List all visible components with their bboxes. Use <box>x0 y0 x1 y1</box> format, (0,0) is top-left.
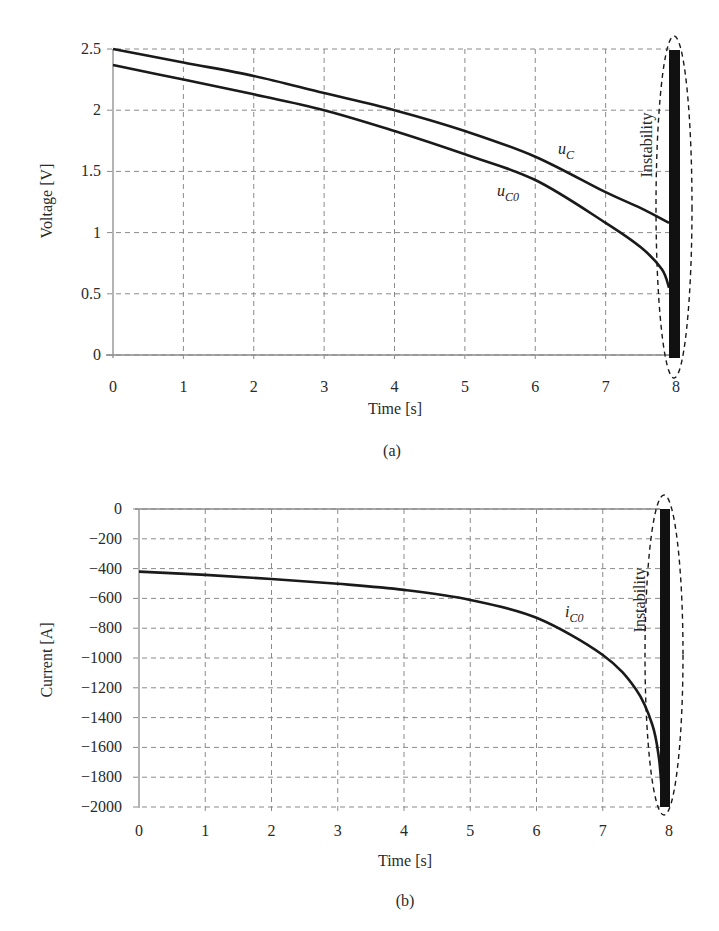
x-tick-label: 3 <box>334 822 342 839</box>
x-tick-label: 0 <box>135 822 143 839</box>
y-tick-label: −1400 <box>81 709 122 726</box>
y-tick-label: −2000 <box>81 798 122 815</box>
label-i-c0: iC0 <box>565 603 583 625</box>
y-tick-label: 0.5 <box>81 285 101 302</box>
chart-a-caption: (a) <box>383 442 401 460</box>
x-tick-label: 7 <box>602 378 610 395</box>
chart-b-x-axis-title: Time [s] <box>378 852 432 869</box>
x-tick-label: 8 <box>665 822 673 839</box>
y-tick-label: −1000 <box>81 649 122 666</box>
chart-b-y-ticks: 0−200−400−600−800−1000−1200−1400−1600−18… <box>81 500 122 815</box>
chart-b-caption: (b) <box>396 892 415 910</box>
x-tick-label: 5 <box>466 822 474 839</box>
chart-a: 00.511.522.5 012345678 uC uC0 Instabilit… <box>38 36 692 460</box>
instability-oscillation-band-a <box>669 50 680 358</box>
chart-a-gridlines <box>107 49 672 359</box>
series-u-c-line <box>113 49 669 223</box>
chart-a-axes <box>106 49 672 358</box>
y-tick-label: 0 <box>114 500 122 517</box>
chart-a-x-ticks: 012345678 <box>109 378 680 395</box>
chart-b-y-axis-title: Current [A] <box>38 622 55 697</box>
x-tick-label: 0 <box>109 378 117 395</box>
y-tick-label: 1.5 <box>81 162 101 179</box>
x-tick-label: 3 <box>320 378 328 395</box>
chart-a-x-axis-title: Time [s] <box>368 400 422 417</box>
chart-b: 0−200−400−600−800−1000−1200−1400−1600−18… <box>38 495 683 910</box>
x-tick-label: 1 <box>179 378 187 395</box>
y-tick-label: 2.5 <box>81 40 101 57</box>
series-u-c0-line <box>113 65 669 288</box>
x-tick-label: 2 <box>268 822 276 839</box>
x-tick-label: 1 <box>201 822 209 839</box>
x-tick-label: 7 <box>599 822 607 839</box>
y-tick-label: −1600 <box>81 738 122 755</box>
chart-b-gridlines <box>133 509 660 811</box>
x-tick-label: 6 <box>531 378 539 395</box>
instability-label-a: Instability <box>638 113 656 178</box>
y-tick-label: 0 <box>93 346 101 363</box>
label-u-c0: uC0 <box>497 182 519 204</box>
chart-a-y-axis-title: Voltage [V] <box>38 164 56 239</box>
x-tick-label: 8 <box>672 378 680 395</box>
label-u-c: uC <box>558 140 575 162</box>
y-tick-label: −1800 <box>81 768 122 785</box>
y-tick-label: 2 <box>93 101 101 118</box>
y-tick-label: −600 <box>89 589 122 606</box>
y-tick-label: 1 <box>93 224 101 241</box>
x-tick-label: 5 <box>461 378 469 395</box>
chart-a-y-ticks: 00.511.522.5 <box>81 40 101 363</box>
y-tick-label: −800 <box>89 619 122 636</box>
series-i-c0-line <box>139 572 662 800</box>
x-tick-label: 2 <box>250 378 258 395</box>
y-tick-label: −200 <box>89 530 122 547</box>
y-tick-label: −1200 <box>81 679 122 696</box>
chart-b-x-ticks: 012345678 <box>135 822 673 839</box>
x-tick-label: 4 <box>400 822 408 839</box>
x-tick-label: 6 <box>533 822 541 839</box>
figure: 00.511.522.5 012345678 uC uC0 Instabilit… <box>0 0 719 931</box>
instability-oscillation-band-b <box>660 509 670 807</box>
x-tick-label: 4 <box>391 378 399 395</box>
instability-label-b: Instability <box>631 568 649 633</box>
y-tick-label: −400 <box>89 560 122 577</box>
